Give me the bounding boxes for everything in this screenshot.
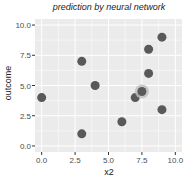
data-point xyxy=(77,129,86,138)
data-point xyxy=(144,45,153,54)
x-tick-label: 2.5 xyxy=(70,156,82,165)
x-tick-label: 5.0 xyxy=(103,156,115,165)
data-point xyxy=(91,81,100,90)
y-tick-label: 5.0 xyxy=(20,82,32,91)
scatter-plot: 0.02.55.07.510.00.02.55.07.510.0 xyxy=(0,0,193,183)
data-point xyxy=(117,117,126,126)
data-point xyxy=(144,69,153,78)
data-point xyxy=(77,57,86,66)
y-tick-label: 10.0 xyxy=(15,21,31,30)
prediction-point xyxy=(137,87,146,96)
data-point xyxy=(157,105,166,114)
x-tick-label: 7.5 xyxy=(136,156,148,165)
data-point xyxy=(37,93,46,102)
y-tick-label: 7.5 xyxy=(20,51,32,60)
y-tick-label: 0.0 xyxy=(20,142,32,151)
x-tick-label: 0.0 xyxy=(36,156,48,165)
y-tick-label: 2.5 xyxy=(20,112,32,121)
data-point xyxy=(157,33,166,42)
x-tick-label: 10.0 xyxy=(168,156,184,165)
